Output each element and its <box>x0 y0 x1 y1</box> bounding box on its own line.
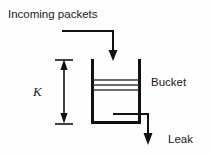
arrow-down-icon-dimension <box>60 113 67 124</box>
capacity-dimension <box>55 60 73 125</box>
inflow-path <box>62 31 113 53</box>
leak-path <box>113 114 148 136</box>
arrow-down-icon-inflow <box>109 50 118 61</box>
bucket-walls <box>93 59 140 123</box>
leak-arrow-group <box>113 114 153 145</box>
bucket-shape <box>93 59 140 123</box>
bucket-fill-levels <box>93 80 139 90</box>
leak-label: Leak <box>168 133 193 145</box>
arrow-down-icon-leak <box>144 133 153 145</box>
inflow-arrow-group <box>62 31 118 61</box>
diagram-canvas: Incoming packets Bucket Leak K <box>0 0 210 156</box>
capacity-label: K <box>32 84 43 99</box>
arrow-up-icon-dimension <box>60 60 67 71</box>
bucket-label: Bucket <box>151 76 187 88</box>
leaky-bucket-diagram: Incoming packets Bucket Leak K <box>0 0 210 156</box>
incoming-packets-label: Incoming packets <box>8 8 98 20</box>
